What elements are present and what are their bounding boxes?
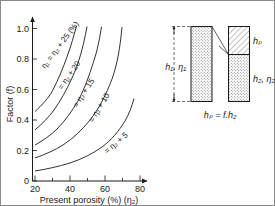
- leader-line-top: [212, 27, 229, 55]
- right-column-dotted-block: [229, 55, 250, 102]
- chart-area: 1.0 0.8 0.6 0.4 0.2 0 20 40 6: [5, 17, 147, 205]
- x-axis-ticks: [35, 176, 140, 182]
- figure-canvas: 1.0 0.8 0.6 0.4 0.2 0 20 40 6: [1, 1, 275, 206]
- curve-label-eta2-plus-15: = η₂ + 15: [71, 76, 97, 109]
- y-tick-label: 0.6: [16, 85, 29, 95]
- y-tick-label: 0: [24, 176, 29, 186]
- y-axis-ticks: [33, 29, 38, 182]
- x-tick-label: 40: [65, 184, 75, 194]
- h2-eta2-label: h₂, η₂: [253, 74, 275, 84]
- x-tick-label: 60: [100, 184, 110, 194]
- y-axis-title: Factor (f): [5, 86, 15, 123]
- y-tick-label: 0.2: [16, 146, 29, 156]
- curve-label-eta2-plus-10: = η₂ + 10: [87, 91, 112, 124]
- y-axis-tick-labels: 1.0 0.8 0.6 0.4 0.2 0: [16, 24, 29, 187]
- x-tick-label: 20: [30, 184, 40, 194]
- column-schematic: h₁, η₁ hₚ h₂, η₂ hₚ = f.h₂: [165, 26, 275, 120]
- x-tick-label: 80: [135, 184, 145, 194]
- left-column-block: [191, 27, 212, 102]
- y-tick-label: 0.4: [16, 115, 29, 125]
- y-tick-label: 0.8: [16, 54, 29, 64]
- figure-panel: 1.0 0.8 0.6 0.4 0.2 0 20 40 6: [0, 0, 275, 206]
- x-axis-title: Present porosity (%) (η₂): [40, 195, 139, 205]
- left-column-label: h₁, η₁: [165, 62, 186, 72]
- leader-line-tick: [219, 46, 229, 55]
- y-tick-label: 1.0: [16, 24, 29, 34]
- hp-label: hₚ: [253, 36, 262, 46]
- x-axis-tick-labels: 20 40 60 80: [30, 184, 145, 194]
- right-column-hatched-block: [229, 27, 250, 55]
- schematic-equation: hₚ = f.h₂: [204, 110, 237, 120]
